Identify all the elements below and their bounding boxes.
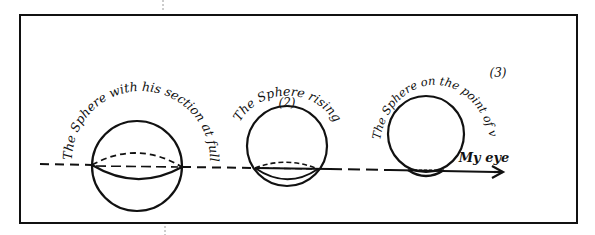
sphere-1-caption: The Sphere with his section at full Size [0, 0, 222, 162]
sphere-1 [92, 121, 182, 211]
sphere-3 [388, 96, 464, 176]
sphere-3-number: (3) [490, 66, 507, 80]
eye-label: My eye [458, 150, 510, 165]
sphere-perspective-diagram: The Sphere with his section at full Size… [0, 0, 595, 235]
sphere-2 [247, 106, 327, 186]
